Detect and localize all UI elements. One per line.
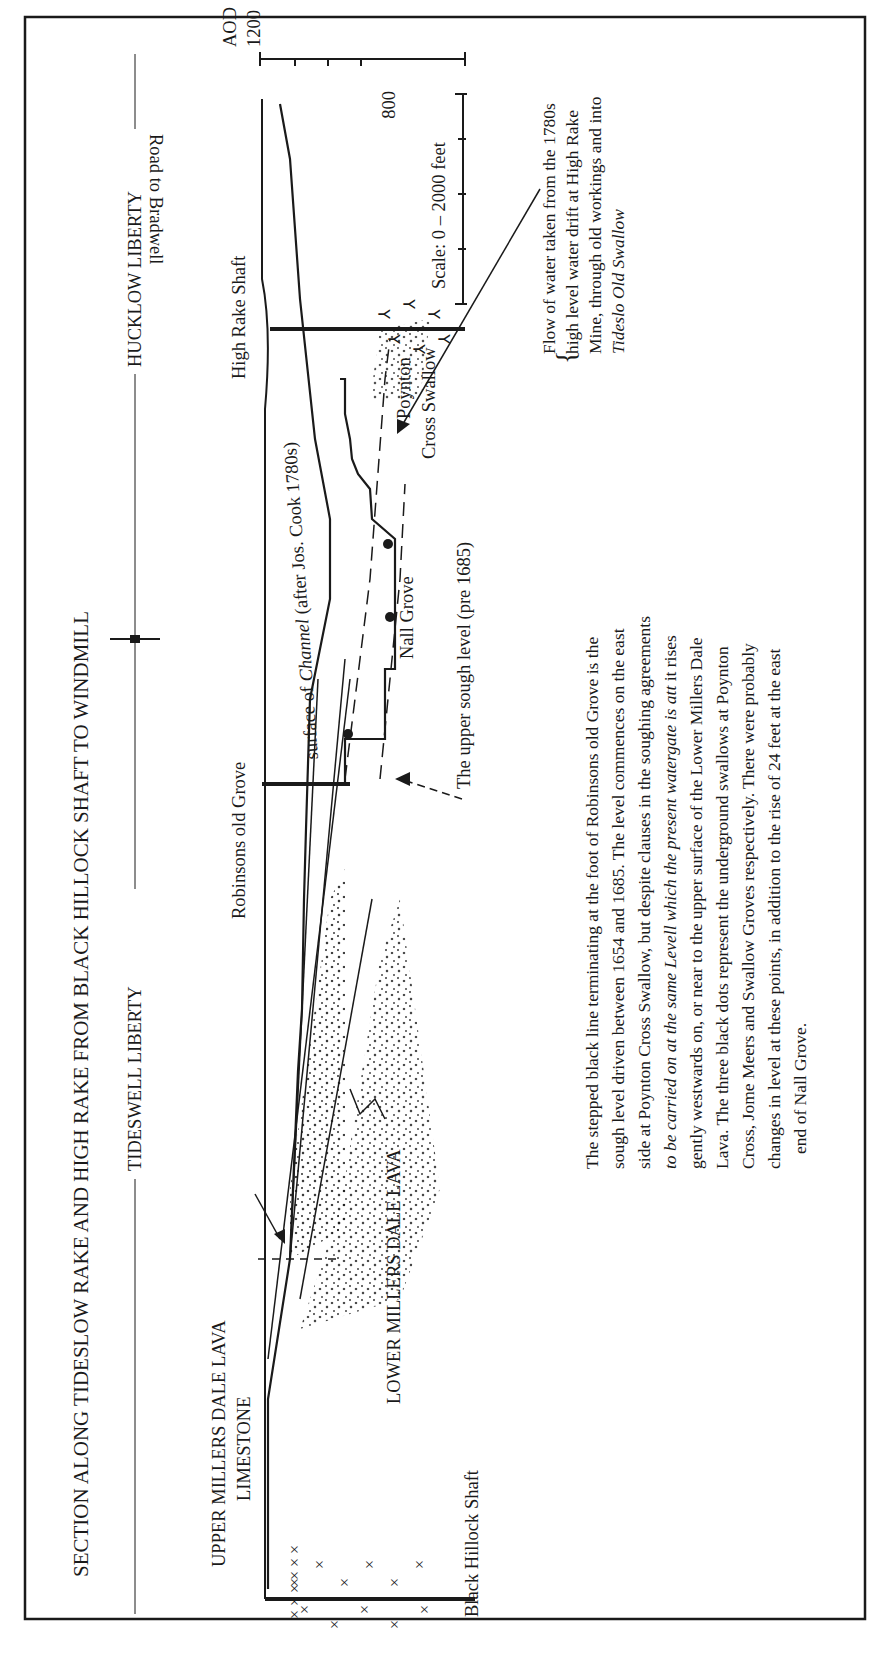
svg-text:×: ×	[386, 1578, 403, 1587]
scale-label: Scale: 0 – 2000 feet	[429, 141, 449, 289]
elevation-tick-1200: 1200	[244, 10, 264, 47]
section-diagram: SECTION ALONG TIDESLOW RAKE AND HIGH RAK…	[0, 0, 879, 1659]
svg-text:⅄: ⅄	[386, 334, 403, 345]
svg-text:Tideslo Old Swallow: Tideslo Old Swallow	[608, 209, 628, 354]
limestone-label: LIMESTONE	[234, 1397, 254, 1502]
diagram-page: SECTION ALONG TIDESLOW RAKE AND HIGH RAK…	[0, 0, 879, 1659]
upper-lava-label: UPPER MILLERS DALE LAVA	[209, 1320, 229, 1567]
svg-text:end of Nall Grove.: end of Nall Grove.	[790, 1023, 810, 1154]
svg-text:surface of Channel (after Jos.: surface of Channel (after Jos. Cook 1780…	[280, 441, 323, 760]
svg-text:Flow of water taken from the 1: Flow of water taken from the 1780s	[539, 103, 559, 354]
svg-text:high level water drift at High: high level water drift at High Rake	[562, 110, 582, 354]
svg-text:×: ×	[361, 1560, 378, 1569]
svg-text:to be carried on at the same L: to be carried on at the same Levell whic…	[660, 635, 680, 1169]
high-rake-shaft-label: High Rake Shaft	[229, 255, 249, 379]
svg-text:Lava. The three black dots rep: Lava. The three black dots represent the…	[712, 646, 732, 1169]
channel-surface-line	[345, 339, 390, 779]
diagram-title: SECTION ALONG TIDESLOW RAKE AND HIGH RAK…	[69, 611, 93, 1577]
svg-text:side at Poynton Cross Swallow,: side at Poynton Cross Swallow, but despi…	[634, 616, 654, 1169]
svg-text:×: ×	[386, 1620, 403, 1629]
svg-text:⅄: ⅄	[426, 309, 443, 320]
svg-text:{: {	[550, 351, 581, 364]
flow-note: Flow of water taken from the 1780s high …	[539, 96, 628, 364]
robinsons-old-grove-label: Robinsons old Grove	[229, 762, 249, 919]
svg-text:×: ×	[356, 1605, 373, 1614]
svg-text:Mine, through old workings and: Mine, through old workings and into	[585, 96, 605, 354]
upper-sough-arrow	[395, 772, 462, 799]
elevation-tick-800: 800	[379, 91, 399, 119]
liberty-boundary: TIDESWELL LIBERTY HUCKLOW LIBERTY	[110, 54, 160, 1614]
ground-surface-profile	[268, 104, 330, 1589]
svg-text:⅄: ⅄	[401, 299, 418, 310]
swallow-dot	[343, 729, 353, 739]
poynton-label-2: Cross Swallow	[419, 347, 439, 459]
black-hillock-shaft-label: Black Hillock Shaft	[462, 1469, 482, 1617]
svg-text:gently westwards on, or near t: gently westwards on, or near to the uppe…	[686, 637, 706, 1169]
channel-label: surface of Channel (after Jos. Cook 1780…	[280, 441, 323, 760]
hucklow-liberty-label: HUCKLOW LIBERTY	[125, 191, 145, 367]
svg-text:×: ×	[326, 1620, 343, 1629]
svg-text:×: ×	[286, 1578, 303, 1587]
svg-text:changes in level at these poin: changes in level at these points, in add…	[764, 648, 784, 1169]
road-to-bradwell-label: Road to Bradwell	[146, 134, 166, 265]
svg-text:×: ×	[416, 1605, 433, 1614]
svg-text:×: ×	[336, 1578, 353, 1587]
elevation-axis: AOD 1200 800	[220, 7, 465, 119]
svg-text:sough level driven between 165: sough level driven between 1654 and 1685…	[608, 628, 628, 1169]
upper-sough-label: The upper sough level (pre 1685)	[454, 542, 475, 789]
svg-text:×: ×	[296, 1605, 313, 1614]
caption-paragraph: The stepped black line terminating at th…	[582, 616, 810, 1169]
sough-level-line	[340, 379, 395, 784]
scale-bar: Scale: 0 – 2000 feet	[429, 94, 467, 304]
upper-lava-arrow	[255, 1194, 285, 1244]
tideswell-liberty-label: TIDESWELL LIBERTY	[125, 986, 145, 1171]
ground-surface-line	[262, 99, 268, 1599]
nall-grove-label: Nall Grove	[397, 576, 417, 659]
svg-text:×: ×	[311, 1560, 328, 1569]
svg-text:×: ×	[411, 1560, 428, 1569]
svg-text:Cross, Jome Meers and Swallow: Cross, Jome Meers and Swallow Groves res…	[738, 643, 758, 1169]
aod-label: AOD	[220, 7, 240, 47]
flow-arrow	[397, 189, 540, 434]
swallow-dot	[385, 612, 395, 622]
svg-text:⅄: ⅄	[376, 309, 393, 320]
poynton-swallow-dot	[383, 539, 393, 549]
svg-text:The stepped black line termina: The stepped black line terminating at th…	[582, 637, 602, 1169]
